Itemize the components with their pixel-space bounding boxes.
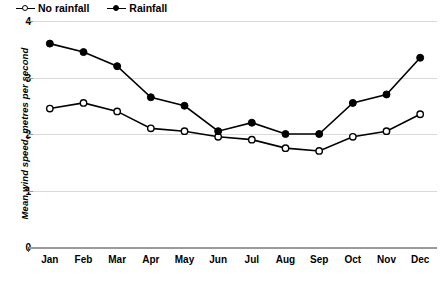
- data-point-marker: [316, 131, 323, 138]
- data-point-marker: [215, 128, 222, 135]
- wind-speed-line-chart: No rainfall Rainfall Mean wind speed, me…: [0, 0, 448, 290]
- x-tick-label: Jun: [209, 254, 227, 265]
- legend-label-no-rainfall: No rainfall: [38, 3, 89, 14]
- x-tick-label: Sep: [310, 254, 328, 265]
- x-tick-label: Jul: [245, 254, 259, 265]
- x-tick-label: Apr: [142, 254, 159, 265]
- x-tick-label: Dec: [411, 254, 429, 265]
- data-point-marker: [350, 134, 356, 140]
- data-point-marker: [282, 145, 288, 151]
- x-tick-label: May: [175, 254, 194, 265]
- data-point-marker: [349, 99, 356, 106]
- legend-label-rainfall: Rainfall: [129, 3, 167, 14]
- x-tick-label: Nov: [377, 254, 396, 265]
- x-axis-line: [28, 247, 437, 249]
- open-circle-marker-icon: [16, 3, 35, 13]
- x-tick-label: Feb: [75, 254, 93, 265]
- data-point-marker: [80, 49, 87, 56]
- legend-entry-rainfall: Rainfall: [107, 3, 167, 14]
- x-tick-label: Mar: [108, 254, 126, 265]
- data-point-marker: [383, 91, 390, 98]
- chart-legend: No rainfall Rainfall: [16, 1, 167, 15]
- series-layer: [33, 21, 437, 247]
- data-point-marker: [248, 119, 255, 126]
- legend-entry-no-rainfall: No rainfall: [16, 3, 89, 14]
- data-point-marker: [114, 63, 121, 70]
- data-point-marker: [80, 100, 86, 106]
- y-axis-origin-tick: [28, 247, 30, 252]
- data-point-marker: [148, 125, 154, 131]
- data-point-marker: [249, 136, 255, 142]
- data-point-marker: [147, 94, 154, 101]
- filled-circle-marker-icon: [107, 3, 126, 13]
- data-point-marker: [383, 128, 389, 134]
- x-axis-labels: JanFebMarAprMayJunJulAugSepOctNovDec: [33, 254, 437, 270]
- data-point-marker: [47, 105, 53, 111]
- x-tick-label: Aug: [276, 254, 295, 265]
- x-tick-label: Jan: [41, 254, 58, 265]
- data-point-marker: [181, 128, 187, 134]
- data-point-marker: [114, 108, 120, 114]
- data-point-marker: [316, 148, 322, 154]
- series-line: [50, 44, 420, 134]
- data-point-marker: [417, 111, 423, 117]
- x-tick-label: Oct: [344, 254, 361, 265]
- data-point-marker: [46, 40, 53, 47]
- plot-area: 01234: [33, 21, 437, 247]
- data-point-marker: [417, 54, 424, 61]
- data-point-marker: [181, 102, 188, 109]
- data-point-marker: [282, 131, 289, 138]
